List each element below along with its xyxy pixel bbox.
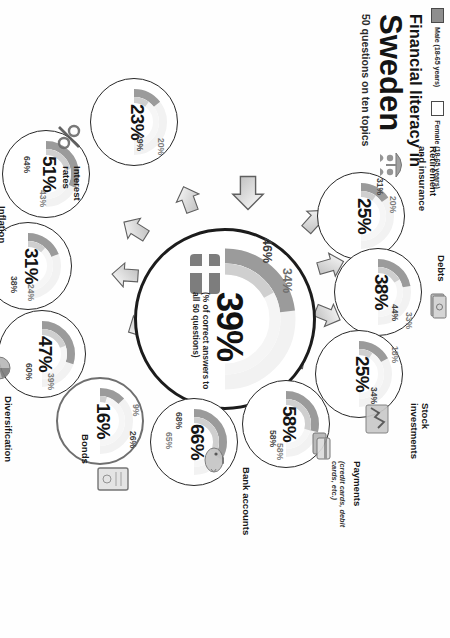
arrow-to-interest-rates [169,180,207,218]
topic-male-value: 31% [375,178,385,195]
piggy-bank-icon [202,445,228,477]
infographic-canvas: Male (18-65 years) Female (18-65 years) … [0,0,450,638]
hub-note: (% of correct answers to all 50 question… [191,292,210,398]
topic-value: 25% [353,172,375,260]
sweden-flag-icon [190,254,220,294]
house-money-icon [0,272,2,302]
topic-female-value: 58% [275,443,285,460]
topic-sublabel-payments: (credit cards, debit cards, etc.) [329,461,346,553]
hub-value: 39% [208,292,250,361]
topic-label-payments: Payments [351,461,362,506]
percent-icon [56,123,82,151]
topic-male-value: 26% [128,431,138,448]
topic-label-diversification: Diversification [2,396,13,462]
hub-female-value: 34% [280,268,294,293]
topic-mortgages[interactable]: 31% 38% 24% [0,222,72,310]
legend-swatch-male-icon [431,8,444,23]
topic-female-value: 20% [156,138,166,155]
topic-male-value: 34% [369,387,379,404]
topic-female-value: 65% [164,432,174,449]
topic-female-value: 20% [388,196,398,213]
topic-label-interest-rates: Interest rates [61,166,82,222]
arrow-hub-primary [225,174,271,212]
stock-chart-icon [364,404,390,434]
topic-male-value: 68% [174,412,184,429]
legend-label-male: Male (18-65 years) [433,27,442,87]
legend-item-male: Male (18-65 years) [431,8,444,87]
topic-label-bonds: Bonds [79,434,90,464]
pie-segments-icon [0,355,12,381]
topic-label-inflation: Inflation [0,206,7,243]
topic-female-value: 39% [46,373,56,390]
topic-interest-rates[interactable]: 23% 29% 20% [90,78,178,166]
hub-male-value: 46% [260,238,274,263]
topic-retirement-and-insurance[interactable]: 25% 31% 20% [317,172,405,260]
topic-value: 16% [92,377,114,465]
topic-label-retirement-and-insurance: Retirement and insurance [417,146,438,224]
credit-cards-icon [308,432,332,462]
topic-female-value: 24% [26,284,36,301]
topic-value: 38% [370,248,392,336]
topic-male-value: 44% [390,304,400,321]
banknotes-icon [426,293,448,319]
legend-swatch-female-icon [431,101,444,116]
topic-female-value: 43% [38,190,48,207]
topic-label-stock-investments: Stock investments [409,403,430,483]
page-subtitle: 50 questions on ten topics [360,14,372,184]
infographic-rotation-wrapper: Male (18-65 years) Female (18-65 years) … [0,0,450,638]
topic-male-value: 64% [22,156,32,173]
price-tag-icon [0,160,2,188]
bond-certificate-icon [96,466,130,492]
topic-diversification[interactable]: 47% 60% 39% [0,310,86,398]
topic-female-value: 9% [131,404,141,416]
topic-female-value: 18% [390,346,400,363]
topic-female-value: 33% [404,312,414,329]
topic-male-value: 60% [24,363,34,380]
topic-label-bank-accounts: Bank accounts [240,467,251,535]
topic-debts[interactable]: 38% 44% 33% [334,248,422,336]
topic-label-debts: Debts [435,255,446,282]
topic-male-value: 29% [135,134,145,151]
topic-male-value: 38% [9,276,19,293]
topic-value: 23% [126,78,148,166]
people-umbrella-icon [379,150,405,180]
